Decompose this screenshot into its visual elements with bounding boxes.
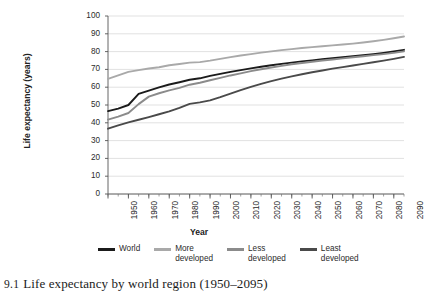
y-tick-label: 30 xyxy=(78,136,100,145)
x-tick-label: 2050 xyxy=(334,201,343,219)
figure-life-expectancy: 0102030405060708090100 19501960197019801… xyxy=(0,0,440,298)
x-tick-label: 1990 xyxy=(212,201,221,219)
x-tick-label: 1950 xyxy=(130,201,139,219)
x-tick-label: 2030 xyxy=(294,201,303,219)
figure-number: 9.1 xyxy=(4,278,19,290)
y-tick-label: 50 xyxy=(78,100,100,109)
y-tick-label: 100 xyxy=(78,11,100,20)
y-tick-label: 40 xyxy=(78,118,100,127)
x-tick-label: 2070 xyxy=(375,201,384,219)
x-tick-label: 2020 xyxy=(273,201,282,219)
x-tick-label: 1980 xyxy=(191,201,200,219)
x-axis-title: Year xyxy=(190,227,208,237)
x-axis-major-ticks xyxy=(108,194,394,199)
y-tick-label: 0 xyxy=(78,189,100,198)
y-tick-label: 20 xyxy=(78,153,100,162)
figure-caption-text: Life expectancy by world region (1950–20… xyxy=(23,276,267,291)
series-line-0 xyxy=(108,50,404,111)
legend-item[interactable]: Less developed xyxy=(227,244,286,263)
series-line-1 xyxy=(108,36,404,78)
x-tick-label: 2090 xyxy=(416,201,425,219)
chart-legend: WorldMore developedLess developedLeast d… xyxy=(98,244,428,272)
y-axis-title: Life expectancy (years) xyxy=(22,31,32,171)
x-tick-label: 1970 xyxy=(171,201,180,219)
y-tick-label: 90 xyxy=(78,29,100,38)
x-tick-label: 2040 xyxy=(314,201,323,219)
legend-item[interactable]: World xyxy=(98,244,140,254)
y-tick-label: 10 xyxy=(78,171,100,180)
data-series-group xyxy=(108,36,404,128)
x-tick-label: 2080 xyxy=(396,201,405,219)
x-tick-label: 2000 xyxy=(232,201,241,219)
x-tick-label: 2010 xyxy=(253,201,262,219)
legend-item[interactable]: More developed xyxy=(154,244,213,263)
figure-caption: 9.1Life expectancy by world region (1950… xyxy=(4,276,268,292)
x-tick-label: 1960 xyxy=(151,201,160,219)
legend-swatch-icon xyxy=(98,248,115,251)
y-tick-label: 60 xyxy=(78,82,100,91)
legend-label: World xyxy=(119,244,140,254)
legend-swatch-icon xyxy=(154,248,171,251)
legend-label: Less developed xyxy=(248,244,286,263)
y-tick-label: 80 xyxy=(78,47,100,56)
legend-item[interactable]: Least developed xyxy=(300,244,359,263)
x-tick-label: 2060 xyxy=(355,201,364,219)
legend-swatch-icon xyxy=(300,248,317,251)
y-tick-label: 70 xyxy=(78,64,100,73)
legend-label: Least developed xyxy=(321,244,359,263)
legend-label: More developed xyxy=(175,244,213,263)
legend-swatch-icon xyxy=(227,248,244,251)
